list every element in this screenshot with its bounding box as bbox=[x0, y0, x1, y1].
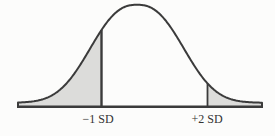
curve-shapes bbox=[17, 5, 263, 107]
minus-1-sd-label: −1 SD bbox=[82, 112, 113, 126]
bell-curve-plot: −1 SD +2 SD bbox=[0, 0, 275, 136]
bell-curve-outline bbox=[18, 5, 262, 107]
left-tail-shaded-region bbox=[18, 31, 102, 107]
normal-distribution-figure: −1 SD +2 SD bbox=[0, 0, 275, 136]
plus-2-sd-label: +2 SD bbox=[191, 112, 222, 126]
